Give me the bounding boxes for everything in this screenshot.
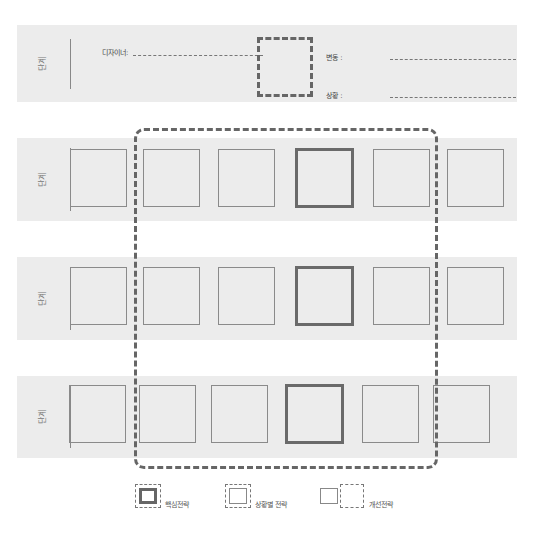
legend-core: 핵심전략 (135, 484, 225, 508)
variation-field[interactable] (390, 59, 516, 60)
designer-label: 디자이너: (102, 47, 128, 57)
legend-improvement: 개선전략 (318, 484, 438, 508)
strategy-box[interactable] (447, 149, 504, 207)
stage-label: 단계 (36, 173, 47, 187)
designer-field[interactable] (133, 55, 263, 56)
variation-label: 변동 : (326, 52, 343, 62)
situation-field[interactable] (390, 97, 516, 98)
strategy-box[interactable] (447, 267, 504, 325)
stage-label: 단계 (36, 292, 47, 306)
stage-label: 단계 (36, 57, 47, 71)
header-dashed-box (257, 37, 313, 97)
legend-label: 핵심전략 (165, 499, 189, 509)
core-box-icon (139, 488, 157, 504)
box-icon (229, 488, 247, 504)
strategy-box[interactable] (70, 267, 127, 325)
legend-situational: 상황별 전략 (225, 484, 315, 508)
stage-label: 단계 (36, 410, 47, 424)
situation-label: 상황 : (326, 90, 343, 100)
legend-label: 개선전략 (369, 499, 393, 509)
situational-strategy-group (134, 128, 438, 469)
box-icon (320, 488, 338, 504)
strategy-box[interactable] (433, 385, 490, 443)
strategy-box[interactable] (69, 385, 126, 443)
band-divider (70, 39, 71, 89)
dashed-frame-icon (340, 484, 364, 508)
legend-label: 상황별 전략 (255, 499, 287, 509)
strategy-box[interactable] (70, 149, 127, 207)
